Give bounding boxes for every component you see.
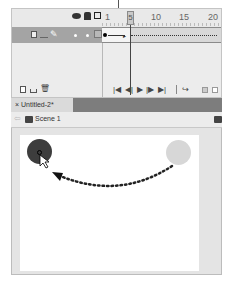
motion-path[interactable]: [0, 0, 231, 286]
cursor-icon: [40, 155, 49, 168]
path-arrowhead: [52, 172, 63, 181]
